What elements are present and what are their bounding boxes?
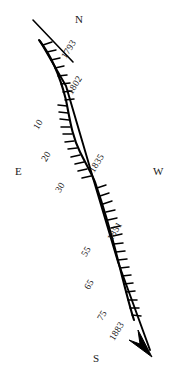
cardinal-label-n: N: [75, 14, 83, 25]
hachure-ticks-lower: [97, 185, 141, 316]
declination-curve-group: [39, 40, 141, 320]
cardinal-label-e: E: [15, 166, 22, 177]
cardinal-label-w: W: [153, 166, 163, 177]
declination-diagram-svg: [0, 0, 184, 377]
reference-line-group: [33, 20, 152, 357]
reference-line-main: [40, 41, 150, 350]
cardinal-label-s: S: [93, 353, 99, 364]
declination-figure: N E W S 1793 1802 1835 1851 1883 10 20 3…: [0, 0, 184, 377]
